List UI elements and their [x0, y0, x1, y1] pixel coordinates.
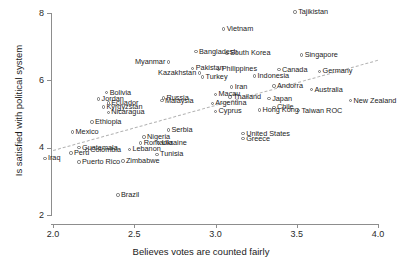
y-tick-label: 2 [24, 211, 44, 220]
x-tick-mark [53, 224, 54, 228]
x-axis-title: Believes votes are counted fairly [0, 246, 402, 257]
scatter-plot: TajikistanVietnamBangladeshSouth KoreaSi… [0, 0, 402, 269]
data-point-label: Tunisia [160, 151, 183, 158]
data-point-label: Serbia [171, 127, 192, 134]
x-tick-label: 3.5 [282, 230, 312, 239]
data-point-label: Greece [246, 135, 270, 142]
x-tick-label: 4.0 [363, 230, 393, 239]
data-point-label: South Korea [230, 50, 271, 57]
y-tick-label: 4 [24, 143, 44, 152]
x-tick-label: 2.5 [119, 230, 149, 239]
x-tick-mark [216, 224, 217, 228]
y-axis-title: Is satisfied with political system [13, 16, 24, 206]
y-tick-mark [47, 148, 51, 149]
x-tick-label: 2.0 [38, 230, 68, 239]
data-point-label: Andorra [277, 82, 303, 89]
data-point-label: Puerto Rico [82, 158, 120, 165]
x-tick-label: 3.0 [201, 230, 231, 239]
data-point-label: Malaysia [165, 97, 194, 104]
data-point-label: Taiwan ROC [301, 107, 342, 114]
data-point-label: Singapore [305, 51, 338, 58]
data-point-label: New Zealand [353, 97, 396, 104]
data-point-label: Tajikistan [298, 8, 328, 15]
data-point-label: Germany [323, 68, 353, 75]
x-tick-mark [297, 224, 298, 228]
data-point-label: Mexico [76, 128, 99, 135]
data-point-label: Japan [272, 95, 292, 102]
y-tick-mark [47, 215, 51, 216]
data-point-label: Cyprus [219, 108, 242, 115]
data-point-label: Australia [314, 86, 342, 93]
data-point-label: Brazil [121, 191, 139, 198]
data-point-label: Vietnam [227, 26, 254, 33]
data-point-label: Indonesia [258, 72, 290, 79]
data-point-label: Ukraine [162, 139, 187, 146]
y-tick-label: 8 [24, 9, 44, 18]
data-point-label: Pakistan [196, 65, 224, 72]
y-tick-label: 6 [24, 76, 44, 85]
x-tick-mark [134, 224, 135, 228]
data-point-label: Ethiopia [95, 118, 121, 125]
data-point-label: Peru [74, 149, 89, 156]
x-tick-mark [378, 224, 379, 228]
data-point-label: Zimbabwe [126, 157, 160, 164]
data-point-label: Colombia [90, 146, 121, 153]
data-point-label: Iraq [48, 155, 61, 162]
data-point-label: Hong Kong [262, 106, 299, 113]
data-point-label: Lebanon [132, 146, 160, 153]
y-tick-mark [47, 13, 51, 14]
data-point-label: Nicaragua [111, 109, 144, 116]
data-point-label: Myanmar [135, 58, 165, 65]
y-tick-mark [47, 80, 51, 81]
data-labels-layer: TajikistanVietnamBangladeshSouth KoreaSi… [0, 0, 402, 269]
data-point-label: Turkey [206, 73, 228, 80]
data-point-label: Kazakhstan [158, 69, 196, 76]
